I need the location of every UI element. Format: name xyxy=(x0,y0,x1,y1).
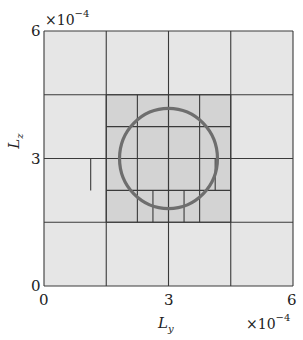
x-axis-label-main: L xyxy=(158,314,168,332)
amr-grid-plot xyxy=(0,0,303,340)
y-axis-label: Lz xyxy=(7,133,25,148)
y-axis-label-sub: z xyxy=(14,133,25,138)
y-tick-6: 6 xyxy=(31,24,41,39)
x-tick-3: 3 xyxy=(164,293,174,308)
y-tick-3: 3 xyxy=(31,152,41,167)
x-exponent-base: ×10 xyxy=(246,316,276,332)
x-axis-label: Ly xyxy=(158,316,174,334)
x-exponent: ×10−4 xyxy=(246,315,290,331)
y-exponent: ×10−4 xyxy=(45,11,89,27)
x-axis-label-sub: y xyxy=(168,323,174,334)
x-exponent-power: −4 xyxy=(276,312,291,323)
y-exponent-base: ×10 xyxy=(45,12,75,28)
y-axis-label-main: L xyxy=(5,139,23,149)
x-tick-0: 0 xyxy=(39,293,49,308)
x-tick-6: 6 xyxy=(287,293,297,308)
y-exponent-power: −4 xyxy=(75,8,90,19)
